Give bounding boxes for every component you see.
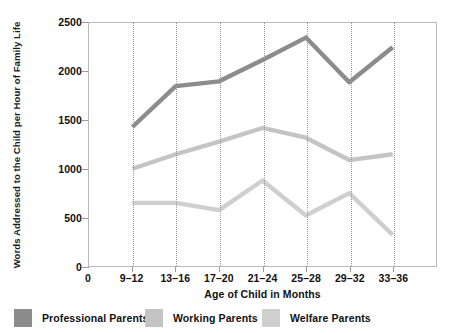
legend-label: Working Parents bbox=[173, 312, 258, 324]
x-tick-label: 9–12 bbox=[120, 272, 144, 284]
plot-area bbox=[88, 22, 437, 267]
y-tick-mark bbox=[82, 169, 88, 170]
y-tick-label: 0 bbox=[42, 261, 82, 273]
legend-swatch bbox=[145, 309, 163, 327]
x-tick-label: 29–32 bbox=[335, 272, 365, 284]
y-tick-label: 1000 bbox=[42, 163, 82, 175]
legend-swatch bbox=[14, 309, 32, 327]
x-tick-label: 0 bbox=[85, 272, 91, 284]
x-tick-label: 33–36 bbox=[379, 272, 409, 284]
y-tick-mark bbox=[82, 71, 88, 72]
series-lines bbox=[89, 23, 436, 266]
legend-label: Professional Parents bbox=[42, 312, 148, 324]
y-tick-label: 1500 bbox=[42, 114, 82, 126]
y-axis-title-text: Words Addressed to the Child per Hour of… bbox=[11, 22, 24, 269]
y-tick-label: 2500 bbox=[42, 16, 82, 28]
legend-item: Professional Parents bbox=[14, 307, 148, 329]
series-line-1 bbox=[132, 128, 392, 169]
y-tick-label: 500 bbox=[42, 212, 82, 224]
x-tick-mark bbox=[132, 267, 133, 272]
legend-item: Working Parents bbox=[145, 307, 258, 329]
y-axis-ticks: 05001000150020002500 bbox=[38, 0, 82, 333]
series-line-0 bbox=[132, 38, 392, 127]
y-axis-title: Words Addressed to the Child per Hour of… bbox=[0, 0, 34, 290]
series-line-2 bbox=[132, 180, 392, 234]
x-tick-mark bbox=[393, 267, 394, 272]
gridline bbox=[307, 23, 308, 266]
y-tick-mark bbox=[82, 218, 88, 219]
x-tick-mark bbox=[175, 267, 176, 272]
x-tick-label: 17–20 bbox=[204, 272, 234, 284]
y-tick-mark bbox=[82, 22, 88, 23]
legend-swatch bbox=[262, 309, 280, 327]
x-tick-mark bbox=[263, 267, 264, 272]
x-axis-title: Age of Child in Months bbox=[88, 288, 437, 300]
chart-figure: Words Addressed to the Child per Hour of… bbox=[0, 0, 460, 333]
gridline bbox=[264, 23, 265, 266]
x-tick-label: 21–24 bbox=[248, 272, 278, 284]
gridline bbox=[351, 23, 352, 266]
gridline bbox=[394, 23, 395, 266]
y-tick-mark bbox=[82, 267, 88, 268]
x-tick-mark bbox=[219, 267, 220, 272]
legend-label: Welfare Parents bbox=[290, 312, 371, 324]
gridline bbox=[220, 23, 221, 266]
gridline bbox=[176, 23, 177, 266]
x-tick-mark bbox=[350, 267, 351, 272]
x-tick-label: 25–28 bbox=[291, 272, 321, 284]
y-tick-label: 2000 bbox=[42, 65, 82, 77]
y-tick-mark bbox=[82, 120, 88, 121]
x-tick-mark bbox=[306, 267, 307, 272]
gridline bbox=[133, 23, 134, 266]
x-tick-label: 13–16 bbox=[160, 272, 190, 284]
chart-legend: Professional ParentsWorking ParentsWelfa… bbox=[0, 307, 460, 329]
legend-item: Welfare Parents bbox=[262, 307, 371, 329]
